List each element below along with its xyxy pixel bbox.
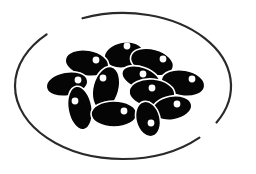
bean-highlight-icon: [124, 43, 131, 50]
bean-highlight-icon: [140, 71, 147, 78]
bean-highlight-icon: [100, 75, 107, 82]
bean-highlight-icon: [148, 120, 155, 127]
bean-highlight-icon: [149, 85, 156, 92]
bean-plate-illustration: Icon illustration of a plate with black …: [0, 0, 256, 174]
bean-highlight-icon: [189, 76, 196, 83]
bean-highlight-icon: [75, 77, 82, 84]
bean-highlight-icon: [121, 108, 128, 115]
bean-highlight-icon: [72, 98, 79, 105]
bean-highlight-icon: [174, 101, 181, 108]
bean-highlight-icon: [93, 57, 100, 64]
beans-group: [44, 39, 207, 140]
bean-highlight-icon: [160, 56, 167, 63]
bean-plate-svg: [0, 0, 256, 174]
bean-icon: [91, 101, 137, 127]
